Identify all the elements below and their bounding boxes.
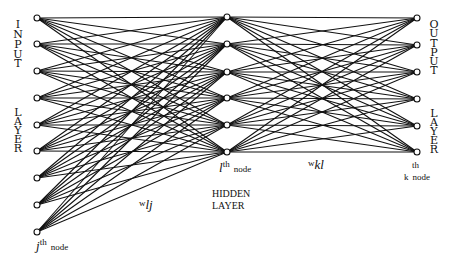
connection-line (37, 152, 227, 232)
hidden-layer-label: HIDDEN LAYER (212, 188, 250, 212)
input-label-letter: R (12, 143, 24, 154)
output-node (414, 42, 420, 48)
connection-line (227, 18, 417, 44)
connection-line (227, 17, 417, 18)
hidden-label-line2: LAYER (212, 200, 250, 212)
input-node (34, 148, 40, 154)
output-node (414, 149, 420, 155)
connection-line (37, 98, 227, 232)
output-node (414, 123, 420, 129)
hidden-label-line1: HIDDEN (212, 188, 250, 200)
input-node (34, 229, 40, 235)
w-kl-symbol: w (308, 158, 315, 168)
hidden-node (224, 69, 230, 75)
k-node-word: node (413, 172, 431, 182)
hidden-node (224, 41, 230, 47)
w-lj-symbol: w (139, 198, 146, 208)
input-node (34, 68, 40, 74)
input-node (34, 15, 40, 21)
w-kl-subscript: kl (315, 157, 324, 172)
w-lj-subscript: lj (146, 197, 153, 212)
j-superscript: th (40, 237, 47, 247)
l-node-word: node (234, 164, 252, 174)
hidden-node (224, 95, 230, 101)
input-node (34, 95, 40, 101)
output-label-letter: T (428, 65, 440, 76)
weight-lj-label: wlj (139, 195, 153, 213)
connection-line (37, 17, 227, 18)
hidden-node (224, 122, 230, 128)
input-node (34, 202, 40, 208)
input-label-letter: T (12, 58, 24, 69)
weight-kl-label: wkl (308, 155, 324, 173)
output-node (414, 69, 420, 75)
l-superscript: th (223, 159, 230, 169)
k-superscript: th (412, 160, 419, 170)
hidden-node (224, 149, 230, 155)
input-node (34, 41, 40, 47)
k-node-label: th k node (404, 158, 430, 182)
output-node (414, 96, 420, 102)
k-variable: k (404, 172, 409, 182)
neural-network-diagram: I N P U T L A Y E R O U T P U T L A Y E … (0, 0, 454, 264)
output-label-letter: R (428, 144, 440, 155)
network-connections (0, 0, 454, 264)
j-node-word: node (51, 242, 69, 252)
connection-line (37, 125, 227, 232)
j-node-label: jth node (36, 236, 68, 254)
input-node (34, 175, 40, 181)
l-node-label: lth node (219, 158, 251, 176)
input-node (34, 122, 40, 128)
connection-line (37, 44, 227, 232)
output-node (414, 15, 420, 21)
hidden-node (224, 14, 230, 20)
